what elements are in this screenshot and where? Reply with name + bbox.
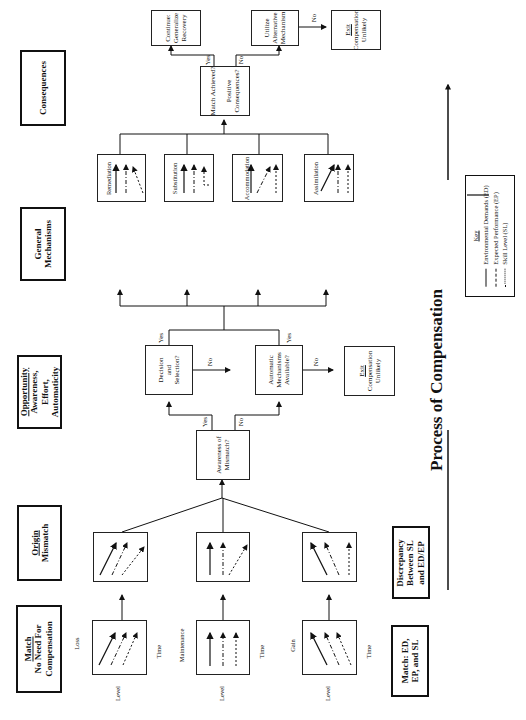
loss-level-label: Level bbox=[114, 686, 121, 701]
loss-label: Loss bbox=[73, 637, 80, 649]
match-achieved-label: Match Achieved? Positive Consequences? bbox=[209, 66, 241, 115]
exit-compensation-unlikely-mid: Exit Compensation Unlikely bbox=[344, 346, 395, 396]
stage-opportunity-box: Opportunity Awareness, Effort, Automatic… bbox=[17, 355, 62, 429]
dash-dot-arrow-icon bbox=[495, 269, 496, 287]
match-achieved-node: Match Achieved? Positive Consequences? bbox=[200, 66, 250, 116]
gain-level-label: Level bbox=[324, 686, 331, 701]
mechanism-assimilation: Assimilation bbox=[304, 154, 354, 202]
decision-no-label: No bbox=[206, 358, 214, 367]
match-loss-graph bbox=[92, 620, 147, 675]
automatic-no-label: No bbox=[312, 358, 320, 367]
key-item-ed: Environmental Demands (ED) bbox=[480, 185, 490, 286]
stage-origin-box: Origin Mismatch bbox=[17, 505, 62, 581]
utilize-alternative-mechanism-node: Utilize Alternative Mechanism bbox=[251, 10, 299, 46]
decision-selection-node: Decision and Selection? bbox=[145, 345, 193, 395]
loss-time-label: Time bbox=[155, 645, 162, 659]
solid-arrow-icon bbox=[485, 269, 486, 287]
exit-top-label: Exit Compensation Unlikely bbox=[344, 10, 368, 50]
key-legend: Key Environmental Demands (ED) Expected … bbox=[465, 175, 515, 297]
continue-label: Continue: Generalize Recovery bbox=[164, 13, 188, 43]
process-of-compensation-title: Process of Compensation bbox=[427, 289, 447, 471]
maintenance-label: Maintenance bbox=[178, 629, 185, 663]
stage-consequences-label: Consequences bbox=[38, 61, 48, 115]
origin-gain-graph bbox=[302, 532, 357, 582]
utilize-no-label: No bbox=[310, 14, 318, 23]
maintenance-time-label: Time bbox=[258, 645, 265, 659]
origin-maintenance-graph bbox=[196, 532, 250, 582]
discrepancy-label: Discrepancy Between SL and ED/EP bbox=[395, 539, 426, 586]
stage-general-mechanisms-label: General Mechanisms bbox=[33, 220, 54, 268]
maintenance-level-label: Level bbox=[218, 686, 225, 701]
key-item-sl: Skill Level (SL) bbox=[500, 185, 510, 286]
mechanism-substitution: Substitution bbox=[164, 154, 214, 202]
match-no-label: No bbox=[237, 56, 245, 65]
dotted-arrow-icon bbox=[505, 269, 506, 287]
stage-match-box: Match No Need For Compensation bbox=[16, 605, 62, 693]
awareness-of-mismatch-node: Awareness of Mismatch? bbox=[196, 430, 250, 480]
utilize-label: Utilize Alternative Mechanism bbox=[263, 12, 287, 45]
decision-yes-label: Yes bbox=[157, 333, 165, 343]
match-maintenance-graph bbox=[196, 620, 250, 675]
automatic-mechanisms-node: Automatic Mechanisms Available? bbox=[255, 345, 303, 395]
key-title: Key bbox=[472, 231, 479, 242]
exit-compensation-unlikely-top: Exit Compensation Unlikely bbox=[331, 10, 381, 50]
awareness-label: Awareness of Mismatch? bbox=[215, 436, 231, 474]
stage-opportunity-label: Opportunity Awareness, Effort, Automatic… bbox=[19, 367, 60, 418]
stage-general-mechanisms-box: General Mechanisms bbox=[20, 207, 66, 281]
awareness-no-label: No bbox=[237, 418, 245, 427]
origin-loss-graph bbox=[93, 532, 148, 582]
mechanism-remediation: Remediation bbox=[97, 154, 146, 202]
stage-origin-label: Origin Mismatch bbox=[29, 524, 50, 563]
match-ed-ep-sl-label: Match: ED, EP, and SL bbox=[400, 639, 421, 684]
stage-match-label: Match No Need For Compensation bbox=[23, 621, 54, 677]
discrepancy-box: Discrepancy Between SL and ED/EP bbox=[392, 526, 430, 599]
gain-label: Gain bbox=[289, 639, 296, 652]
key-content: Key Environmental Demands (ED) Expected … bbox=[471, 185, 510, 286]
exit-mid-label: Exit Compensation Unlikely bbox=[357, 351, 381, 391]
mechanism-accommodation: Accommodation bbox=[232, 154, 283, 202]
stage-consequences-box: Consequences bbox=[20, 50, 66, 126]
automatic-yes-label: Yes bbox=[285, 333, 293, 343]
automatic-label: Automatic Mechanisms Available? bbox=[267, 352, 291, 387]
match-ed-ep-sl-box: Match: ED, EP, and SL bbox=[391, 625, 429, 697]
gain-time-label: Time bbox=[365, 645, 372, 659]
awareness-yes-label: Yes bbox=[201, 417, 209, 427]
key-item-ep: Expected Performance (EP) bbox=[490, 185, 500, 286]
match-yes-label: Yes bbox=[204, 55, 212, 65]
match-gain-graph bbox=[302, 620, 357, 675]
continue-generalize-recovery-node: Continue: Generalize Recovery bbox=[151, 10, 201, 46]
decision-label: Decision and Selection? bbox=[157, 355, 181, 384]
